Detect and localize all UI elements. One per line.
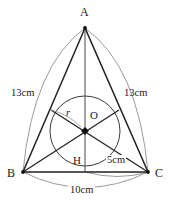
dimension-label-bc: 10cm — [68, 185, 95, 196]
geometry-figure — [0, 0, 173, 210]
vertex-dot-b — [21, 170, 25, 174]
vertex-dot-c — [146, 170, 150, 174]
dimension-label-ab: 13cm — [11, 88, 34, 99]
vertex-label-c: C — [155, 167, 163, 179]
foot-label-h: H — [73, 155, 81, 166]
radius-label-r: r — [66, 108, 70, 119]
incenter-label-o: O — [90, 110, 98, 121]
vertex-dot-a — [83, 26, 87, 30]
dimension-label-hc: 5cm — [106, 155, 126, 166]
dimension-label-ac: 13cm — [124, 88, 147, 99]
vertex-label-a: A — [80, 6, 89, 18]
vertex-label-b: B — [7, 167, 15, 179]
